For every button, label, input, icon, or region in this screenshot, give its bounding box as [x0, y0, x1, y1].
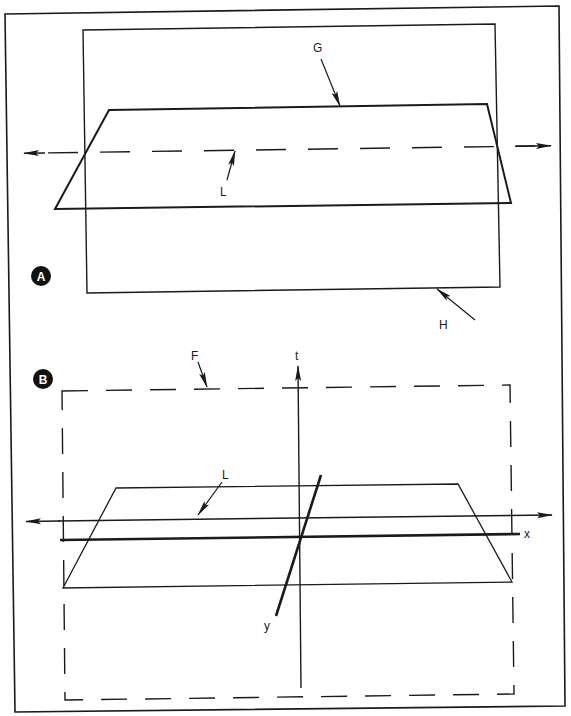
figure-diagram: G L H A t x y L F [0, 0, 571, 716]
pointer-h [437, 289, 475, 320]
label-g: G [313, 41, 322, 55]
plane-g [55, 104, 511, 209]
plane-f [62, 385, 514, 700]
label-y: y [264, 619, 270, 633]
label-x: x [524, 527, 530, 541]
label-h: H [439, 318, 448, 332]
line-l-a [40, 146, 535, 153]
label-t: t [295, 349, 299, 363]
pointer-l-a [227, 151, 235, 180]
svg-text:A: A [37, 270, 46, 284]
axis-x [60, 534, 520, 540]
pointer-g [321, 59, 340, 106]
pointer-f [198, 362, 207, 387]
panel-a: G L H A [24, 24, 551, 332]
outer-frame [5, 6, 565, 712]
axis-y [276, 475, 321, 616]
panel-badge-b: B [33, 369, 53, 389]
panel-b: t x y L F B [26, 349, 552, 700]
panel-badge-a: A [31, 266, 51, 286]
label-l-b: L [222, 468, 229, 482]
svg-text:B: B [39, 373, 48, 387]
axis-t [298, 366, 301, 688]
label-f: F [191, 349, 198, 363]
label-l-a: L [220, 185, 227, 199]
plane-h [83, 24, 500, 293]
